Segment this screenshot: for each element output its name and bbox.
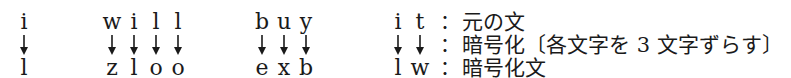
original-letter: i xyxy=(124,11,144,33)
down-arrow-icon xyxy=(124,34,144,56)
encrypted-letter: e xyxy=(252,57,272,78)
label-original-text: 元の文 xyxy=(462,11,525,33)
encrypted-letter: z xyxy=(102,57,122,78)
original-letter: i xyxy=(14,11,34,33)
colon-separator: ： xyxy=(440,11,460,33)
encrypted-letter: l xyxy=(124,57,144,78)
down-arrow-icon xyxy=(14,34,34,56)
label-encrypted-text: 暗号化文 xyxy=(462,57,546,78)
down-arrow-icon xyxy=(102,34,122,56)
encrypted-letter: b xyxy=(296,57,316,78)
original-letter: t xyxy=(410,11,430,33)
down-arrow-icon xyxy=(410,34,430,56)
original-letter: l xyxy=(146,11,166,33)
original-letter: w xyxy=(102,11,122,33)
original-letter: i xyxy=(388,11,408,33)
encrypted-letter: l xyxy=(14,57,34,78)
encrypted-letter: l xyxy=(388,57,408,78)
original-letter: y xyxy=(296,11,316,33)
original-letter: l xyxy=(168,11,188,33)
encrypted-letter: w xyxy=(410,57,430,78)
original-letter: b xyxy=(252,11,272,33)
original-letter: u xyxy=(274,11,294,33)
down-arrow-icon xyxy=(146,34,166,56)
down-arrow-icon xyxy=(252,34,272,56)
colon-separator: ： xyxy=(440,57,460,78)
down-arrow-icon xyxy=(296,34,316,56)
colon-separator: ： xyxy=(440,34,460,56)
down-arrow-icon xyxy=(168,34,188,56)
encrypted-letter: o xyxy=(168,57,188,78)
encrypted-letter: o xyxy=(146,57,166,78)
label-encryption: 暗号化〔各文字を 3 文字ずらす〕 xyxy=(462,34,783,56)
down-arrow-icon xyxy=(388,34,408,56)
encrypted-letter: x xyxy=(274,57,294,78)
down-arrow-icon xyxy=(274,34,294,56)
